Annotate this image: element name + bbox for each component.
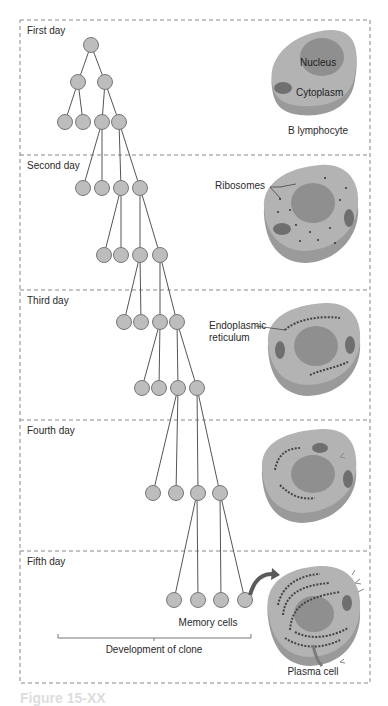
plasma-cell-label: Plasma cell bbox=[287, 666, 338, 677]
figure-caption: Figure 15-XX bbox=[20, 690, 106, 706]
arrow-head-icon bbox=[271, 568, 280, 580]
b-lymphocyte-label: B lymphocyte bbox=[288, 125, 348, 136]
endoplasmic-reticulum-callout: Endoplasmic reticulum bbox=[209, 320, 266, 344]
cytoplasm-label: Cytoplasm bbox=[296, 87, 343, 98]
day-label-3: Third day bbox=[27, 295, 69, 306]
development-of-clone-label: Development of clone bbox=[106, 644, 203, 655]
er-callout-line-2: reticulum bbox=[209, 332, 250, 343]
ribosomes-callout: Ribosomes bbox=[215, 180, 265, 191]
er-callout-line-1: Endoplasmic bbox=[209, 320, 266, 331]
day-label-2: Second day bbox=[27, 160, 80, 171]
day-label-4: Fourth day bbox=[27, 425, 75, 436]
day-label-1: First day bbox=[27, 25, 65, 36]
day3-cell-illustration bbox=[256, 303, 360, 396]
memory-cells-label: Memory cells bbox=[179, 617, 238, 628]
clone-bracket bbox=[58, 634, 251, 641]
day-label-5: Fifth day bbox=[27, 556, 65, 567]
nucleus-label: Nucleus bbox=[300, 57, 336, 68]
plasma-cell-illustration bbox=[268, 566, 364, 666]
day2-cell-illustration bbox=[264, 165, 358, 263]
b-lymphocyte-illustration bbox=[272, 30, 357, 115]
differentiation-arrow bbox=[250, 574, 272, 595]
day4-cell-illustration bbox=[262, 429, 356, 523]
